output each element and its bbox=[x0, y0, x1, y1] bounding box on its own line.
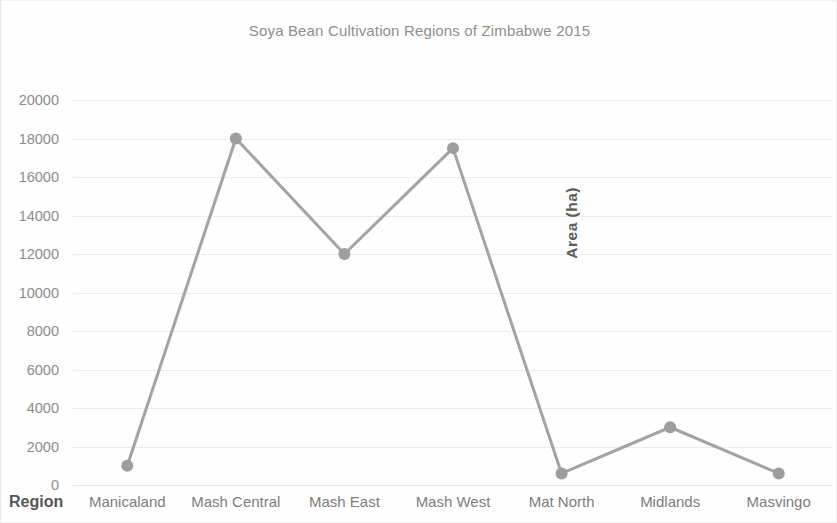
data-point-marker bbox=[447, 142, 459, 154]
x-tick-label: Masvingo bbox=[747, 493, 811, 510]
data-point-marker bbox=[338, 248, 350, 260]
y-axis-title: Area (ha) bbox=[563, 187, 581, 259]
plot-area bbox=[73, 100, 833, 485]
chart-title: Soya Bean Cultivation Regions of Zimbabw… bbox=[1, 22, 837, 39]
y-tick-label: 4000 bbox=[27, 400, 59, 416]
data-point-marker bbox=[773, 467, 785, 479]
data-point-marker bbox=[556, 467, 568, 479]
x-tick-label: Midlands bbox=[640, 493, 700, 510]
x-tick-label: Mash West bbox=[416, 493, 491, 510]
series-line bbox=[127, 139, 778, 474]
y-tick-label: 14000 bbox=[19, 208, 59, 224]
y-tick-label: 0 bbox=[51, 477, 59, 493]
x-tick-label: Manicaland bbox=[89, 493, 166, 510]
y-axis-tick-labels: 0200040006000800010000120001400016000180… bbox=[1, 1, 73, 523]
x-axis-title: Region bbox=[9, 493, 63, 511]
x-tick-label: Mash Central bbox=[191, 493, 280, 510]
y-tick-label: 12000 bbox=[19, 246, 59, 262]
data-point-marker bbox=[121, 460, 133, 472]
y-tick-label: 10000 bbox=[19, 285, 59, 301]
y-tick-label: 6000 bbox=[27, 362, 59, 378]
data-point-marker bbox=[230, 133, 242, 145]
x-tick-label: Mat North bbox=[529, 493, 595, 510]
x-axis-tick-labels: ManicalandMash CentralMash EastMash West… bbox=[73, 493, 833, 521]
y-tick-label: 8000 bbox=[27, 323, 59, 339]
chart-figure: Soya Bean Cultivation Regions of Zimbabw… bbox=[0, 0, 837, 523]
y-tick-label: 16000 bbox=[19, 169, 59, 185]
y-tick-label: 20000 bbox=[19, 92, 59, 108]
y-tick-label: 18000 bbox=[19, 131, 59, 147]
x-tick-label: Mash East bbox=[309, 493, 380, 510]
data-point-marker bbox=[664, 421, 676, 433]
y-tick-label: 2000 bbox=[27, 439, 59, 455]
gridline bbox=[73, 485, 833, 486]
line-series bbox=[73, 100, 833, 485]
